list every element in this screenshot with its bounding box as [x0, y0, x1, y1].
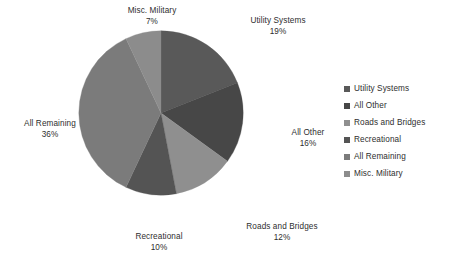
legend-item[interactable]: Misc. Military — [344, 165, 452, 182]
slice-label-utility-systems: Utility Systems 19% — [218, 16, 338, 37]
legend-swatch-icon — [344, 137, 350, 143]
legend-item[interactable]: All Other — [344, 97, 452, 114]
slice-label-roads-and-bridges: Roads and Bridges 12% — [222, 222, 342, 243]
legend-item-label: Misc. Military — [354, 169, 403, 178]
legend-item[interactable]: All Remaining — [344, 148, 452, 165]
slice-label-percent: 10% — [104, 243, 214, 254]
slice-label-percent: 12% — [222, 233, 342, 244]
legend-item[interactable]: Recreational — [344, 131, 452, 148]
slice-label-percent: 19% — [218, 27, 338, 38]
slice-label-misc-military: Misc. Military 7% — [92, 6, 212, 27]
chart-legend: Utility SystemsAll OtherRoads and Bridge… — [344, 80, 452, 182]
legend-item-label: All Other — [354, 101, 387, 110]
pie-svg — [78, 30, 244, 196]
pie-graphic — [78, 30, 244, 196]
legend-item-label: Roads and Bridges — [354, 118, 425, 127]
slice-label-percent: 36% — [2, 130, 98, 141]
slice-label-name: All Remaining — [2, 119, 98, 130]
slice-label-all-remaining: All Remaining 36% — [2, 119, 98, 140]
slice-label-name: Utility Systems — [218, 16, 338, 27]
legend-swatch-icon — [344, 86, 350, 92]
slice-label-name: Roads and Bridges — [222, 222, 342, 233]
legend-item-label: All Remaining — [354, 152, 406, 161]
slice-label-name: Recreational — [104, 232, 214, 243]
slice-label-name: All Other — [268, 128, 348, 139]
pie-slice-group — [79, 31, 243, 195]
legend-item[interactable]: Utility Systems — [344, 80, 452, 97]
legend-swatch-icon — [344, 171, 350, 177]
legend-item-label: Utility Systems — [354, 84, 409, 93]
slice-label-percent: 16% — [268, 139, 348, 150]
legend-swatch-icon — [344, 120, 350, 126]
slice-label-recreational: Recreational 10% — [104, 232, 214, 253]
legend-item[interactable]: Roads and Bridges — [344, 114, 452, 131]
pie-chart-figure: Misc. Military 7% Utility Systems 19% Al… — [0, 0, 452, 272]
legend-swatch-icon — [344, 103, 350, 109]
slice-label-name: Misc. Military — [92, 6, 212, 17]
legend-item-label: Recreational — [354, 135, 401, 144]
slice-label-percent: 7% — [92, 17, 212, 28]
slice-label-all-other: All Other 16% — [268, 128, 348, 149]
legend-swatch-icon — [344, 154, 350, 160]
